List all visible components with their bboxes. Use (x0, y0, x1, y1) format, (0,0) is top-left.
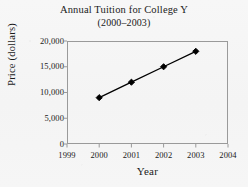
data-line (99, 51, 196, 97)
x-axis-ticks (67, 144, 228, 148)
plot-graphics (0, 0, 248, 187)
data-point-marker (193, 48, 199, 54)
data-point-marker (128, 79, 134, 85)
y-axis-ticks (64, 41, 68, 144)
data-point-marker (96, 95, 102, 101)
data-point-marker (161, 64, 167, 70)
chart-screenshot: Annual Tuition for College Y (2000–2003)… (0, 0, 248, 187)
